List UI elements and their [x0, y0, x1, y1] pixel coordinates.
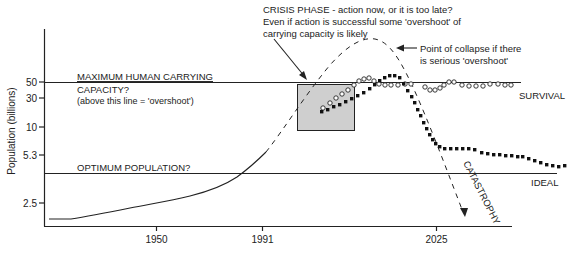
y-tick-label: 30 — [26, 93, 38, 104]
crisis-phase-annotation: Even if action is successful some 'overs… — [263, 16, 461, 27]
y-tick-label: 10 — [26, 122, 38, 133]
y-tick-label: 50 — [26, 77, 38, 88]
crisis-phase-annotation: carrying capacity is likely — [263, 28, 368, 39]
collapse-annotation: Point of collapse if there — [420, 43, 521, 54]
x-tick-labels: 1950 1991 2025 — [145, 234, 448, 245]
x-tick-label: 1991 — [251, 234, 274, 245]
catastrophy-label: CATASTROPHY — [461, 159, 503, 227]
x-tick-label: 1950 — [145, 234, 168, 245]
carrying-capacity-label: MAXIMUM HUMAN CARRYING — [77, 71, 213, 82]
collapse-arrow-icon — [396, 45, 404, 52]
carrying-capacity-label: CAPACITY? — [77, 84, 129, 95]
catastrophy-arrow-icon — [460, 208, 468, 217]
optimum-population-label: OPTIMUM POPULATION? — [77, 162, 190, 173]
carrying-capacity-note: (above this line = 'overshoot') — [77, 96, 194, 106]
crisis-arrow-line — [274, 39, 305, 77]
population-overshoot-diagram: 50 30 10 5.3 2.5 Population (billions) 1… — [0, 0, 572, 253]
crisis-phase-annotation: CRISIS PHASE - action now, or it is too … — [263, 4, 453, 15]
y-tick-label: 2.5 — [23, 198, 37, 209]
ideal-label: IDEAL — [531, 177, 558, 188]
y-tick-labels: 50 30 10 5.3 2.5 — [23, 77, 37, 209]
collapse-annotation: is serious 'overshoot' — [420, 55, 508, 66]
y-axis-title: Population (billions) — [6, 87, 17, 174]
decline-squares-series — [320, 74, 566, 168]
crisis-arrow-icon — [299, 71, 307, 80]
survival-label: SURVIVAL — [519, 90, 565, 101]
y-tick-label: 5.3 — [23, 150, 37, 161]
x-tick-label: 2025 — [425, 234, 448, 245]
